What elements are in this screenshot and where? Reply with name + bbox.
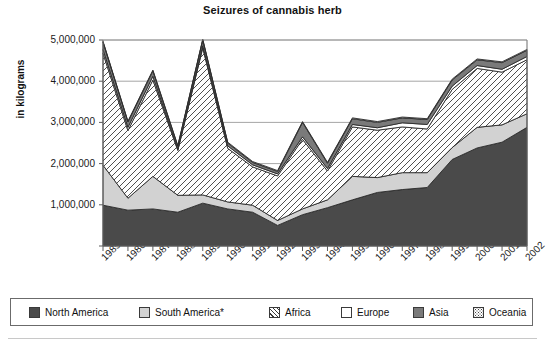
legend-swatch-icon xyxy=(413,307,424,318)
legend-label: Europe xyxy=(357,307,389,318)
legend-item-oceania[interactable]: Oceania xyxy=(473,307,526,318)
legend-item-south-america[interactable]: South America* xyxy=(139,307,224,318)
legend-swatch-icon xyxy=(269,307,280,318)
legend-label: Asia xyxy=(429,307,448,318)
legend-label: Oceania xyxy=(489,307,526,318)
legend-item-asia[interactable]: Asia xyxy=(413,307,448,318)
chart-legend: North AmericaSouth America*AfricaEuropeA… xyxy=(10,298,533,326)
legend-swatch-icon xyxy=(139,307,150,318)
legend-label: North America xyxy=(45,307,108,318)
area-series-group xyxy=(103,39,527,246)
legend-item-europe[interactable]: Europe xyxy=(341,307,389,318)
legend-swatch-icon xyxy=(29,307,40,318)
footer-divider xyxy=(8,338,537,339)
legend-item-africa[interactable]: Africa xyxy=(269,307,311,318)
legend-label: Africa xyxy=(285,307,311,318)
legend-label: South America* xyxy=(155,307,224,318)
legend-item-north-america[interactable]: North America xyxy=(29,307,108,318)
legend-swatch-icon xyxy=(341,307,352,318)
legend-swatch-icon xyxy=(473,307,484,318)
